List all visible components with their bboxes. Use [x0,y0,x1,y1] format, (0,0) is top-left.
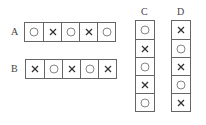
cross-icon [48,27,58,37]
grid-cell [43,23,61,41]
circle-icon [66,27,76,37]
grid-cell [79,23,97,41]
circle-icon [176,44,186,54]
circle-icon [140,25,150,35]
cross-icon [140,80,150,90]
grid-cell [136,75,154,93]
grid-cell [172,57,190,75]
row-a-grid [24,22,116,42]
cross-icon [140,44,150,54]
cross-icon [103,64,113,74]
grid-cell [136,93,154,111]
grid-cell [172,21,190,39]
grid-cell [25,23,43,41]
row-label-b: B [11,64,18,74]
circle-icon [85,64,95,74]
cross-icon [30,64,40,74]
row-b-grid [25,59,117,79]
circle-icon [102,27,112,37]
grid-cell [172,75,190,93]
circle-icon [176,80,186,90]
grid-cell [172,93,190,111]
grid-cell [61,23,79,41]
grid-cell [80,60,98,78]
column-label-c: C [141,7,148,17]
grid-cell [44,60,62,78]
column-c-grid [135,20,155,112]
circle-icon [29,27,39,37]
circle-icon [140,62,150,72]
grid-cell [26,60,44,78]
cross-icon [176,25,186,35]
grid-cell [98,60,116,78]
cross-icon [176,98,186,108]
grid-cell [172,39,190,57]
column-d-grid [171,20,191,112]
cross-icon [176,62,186,72]
cross-icon [84,27,94,37]
grid-cell [97,23,115,41]
grid-cell [136,39,154,57]
column-label-d: D [177,7,184,17]
grid-cell [136,57,154,75]
circle-icon [140,98,150,108]
row-label-a: A [11,27,18,37]
circle-icon [49,64,59,74]
grid-cell [136,21,154,39]
grid-cell [62,60,80,78]
cross-icon [67,64,77,74]
